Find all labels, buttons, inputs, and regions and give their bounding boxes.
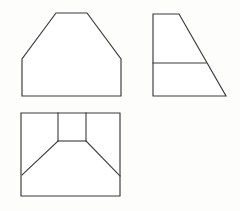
orthographic-views-canvas [0,0,240,211]
top-view-outline [21,113,120,196]
right-side-view-group [153,14,226,96]
technical-drawing-sheet [0,0,240,211]
front-view-outline [22,13,121,96]
right-side-view-outline [153,14,226,96]
front-view-group [22,13,121,96]
top-view-group [21,113,120,196]
